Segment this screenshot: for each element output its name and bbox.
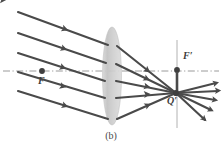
refracted-arrowhead-2 — [143, 74, 152, 83]
diverging-arrowhead-4 — [0, 0, 6, 3]
focal-point-F-dot — [39, 68, 45, 74]
converging-lens — [103, 27, 122, 125]
refracted-arrowhead-4 — [144, 91, 151, 98]
refracted-ray-group — [116, 46, 176, 119]
label-image-point-Q-prime: Q′ — [167, 96, 177, 106]
optics-figure: F F′ Q′ (b) — [0, 0, 222, 155]
diverging-ray-group — [176, 83, 218, 120]
figure-caption: (b) — [0, 131, 222, 141]
incident-ray-1 — [18, 12, 108, 45]
incident-ray-2 — [18, 33, 106, 63]
label-focal-point-F-prime: F′ — [183, 51, 192, 61]
diverging-arrowhead-4b — [207, 106, 215, 114]
lens-body — [103, 27, 122, 125]
label-focal-point-F: F — [38, 76, 45, 86]
refracted-arrowhead-5 — [144, 101, 153, 110]
